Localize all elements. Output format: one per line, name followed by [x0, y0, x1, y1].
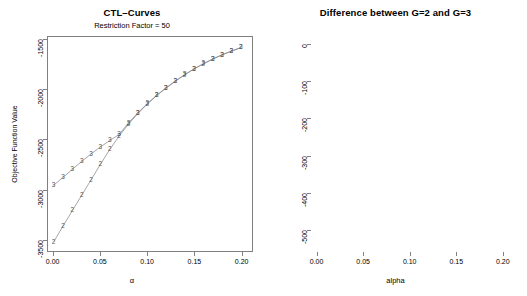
left-x-tick-label: 0.00 — [46, 258, 60, 265]
right-y-tickmark — [307, 118, 311, 119]
right-y-tickmark — [307, 230, 311, 231]
left-y-tick-label: -1500 — [37, 39, 44, 57]
left-data-marker: 3 — [117, 130, 121, 137]
left-data-marker: 3 — [183, 70, 187, 77]
right-y-tick-label: -400 — [301, 193, 308, 207]
left-data-marker: 3 — [108, 136, 112, 143]
left-y-tickmark — [43, 240, 47, 241]
left-data-marker: 3 — [220, 51, 224, 58]
left-data-marker: 2 — [108, 145, 112, 152]
left-x-tick-label: 0.10 — [140, 258, 154, 265]
left-x-tickmark — [53, 252, 54, 256]
left-data-marker: 2 — [52, 238, 56, 245]
right-y-tickmark — [307, 193, 311, 194]
right-x-tickmark — [363, 252, 364, 256]
left-data-marker: 2 — [99, 160, 103, 167]
left-data-marker: 3 — [164, 84, 168, 91]
left-data-marker: 3 — [136, 109, 140, 116]
right-x-tick-label: 0.00 — [310, 258, 324, 265]
right-x-tick-label: 0.15 — [449, 258, 463, 265]
right-y-tick-label: -500 — [301, 230, 308, 244]
left-plot-canvas: 2222222222222222222223333333333333333333… — [48, 37, 252, 251]
left-data-marker: 3 — [99, 143, 103, 150]
right-panel: Difference between G=2 and G=3 0-100-200… — [264, 0, 527, 296]
left-data-marker: 2 — [61, 222, 65, 229]
left-data-marker: 3 — [80, 157, 84, 164]
left-data-marker: 3 — [89, 150, 93, 157]
left-data-marker: 3 — [230, 47, 234, 54]
left-data-marker: 3 — [127, 119, 131, 126]
right-x-tick-label: 0.10 — [403, 258, 417, 265]
left-x-tick-label: 0.15 — [188, 258, 202, 265]
left-data-marker: 3 — [192, 65, 196, 72]
right-y-tick-label: -200 — [301, 118, 308, 132]
right-x-tickmark — [503, 252, 504, 256]
right-y-tick-label: -100 — [301, 81, 308, 95]
left-series-line-G3 — [54, 48, 241, 186]
left-data-marker: 2 — [80, 191, 84, 198]
left-data-marker: 2 — [89, 176, 93, 183]
right-y-tickmark — [307, 81, 311, 82]
ctl-curves-figure: CTL–Curves Restriction Factor = 50 Objec… — [0, 0, 527, 296]
left-y-tickmark — [43, 139, 47, 140]
left-panel: CTL–Curves Restriction Factor = 50 Objec… — [0, 0, 264, 296]
right-x-tickmark — [317, 252, 318, 256]
right-y-tickmark — [307, 156, 311, 157]
left-data-marker: 2 — [71, 206, 75, 213]
left-x-tickmark — [242, 252, 243, 256]
left-y-tick-label: -3000 — [37, 190, 44, 208]
left-y-tickmark — [43, 89, 47, 90]
left-series-line-G2 — [54, 48, 241, 242]
left-panel-subtitle: Restriction Factor = 50 — [0, 21, 264, 30]
right-x-tickmark — [410, 252, 411, 256]
left-x-tick-label: 0.05 — [93, 258, 107, 265]
left-x-tick-label: 0.20 — [235, 258, 249, 265]
left-y-tickmark — [43, 39, 47, 40]
right-y-tickmark — [307, 44, 311, 45]
left-data-marker: 3 — [145, 99, 149, 106]
left-x-tickmark — [194, 252, 195, 256]
left-panel-title: CTL–Curves — [0, 7, 264, 18]
left-data-marker: 3 — [71, 165, 75, 172]
left-data-marker: 3 — [61, 173, 65, 180]
left-data-marker: 3 — [202, 59, 206, 66]
right-x-tick-label: 0.20 — [496, 258, 510, 265]
left-data-marker: 3 — [155, 91, 159, 98]
left-y-tick-label: -3500 — [37, 240, 44, 258]
left-data-marker: 3 — [239, 43, 243, 50]
left-y-axis-title: Objective Function Value — [11, 105, 18, 182]
right-x-tick-label: 0.05 — [356, 258, 370, 265]
right-y-tick-label: -300 — [301, 156, 308, 170]
left-x-tickmark — [147, 252, 148, 256]
right-x-tickmark — [456, 252, 457, 256]
left-x-tickmark — [100, 252, 101, 256]
right-panel-title: Difference between G=2 and G=3 — [264, 7, 527, 18]
left-data-marker: 3 — [52, 181, 56, 188]
left-y-tick-label: -2000 — [37, 89, 44, 107]
left-y-tickmark — [43, 190, 47, 191]
left-plot-area: 2222222222222222222223333333333333333333… — [47, 36, 253, 252]
left-data-marker: 3 — [173, 77, 177, 84]
left-x-axis-title: α — [0, 276, 264, 285]
right-y-tick-label: 0 — [301, 44, 308, 48]
left-y-tick-label: -2500 — [37, 139, 44, 157]
right-x-axis-title: alpha — [264, 276, 527, 285]
left-data-marker: 3 — [211, 55, 215, 62]
